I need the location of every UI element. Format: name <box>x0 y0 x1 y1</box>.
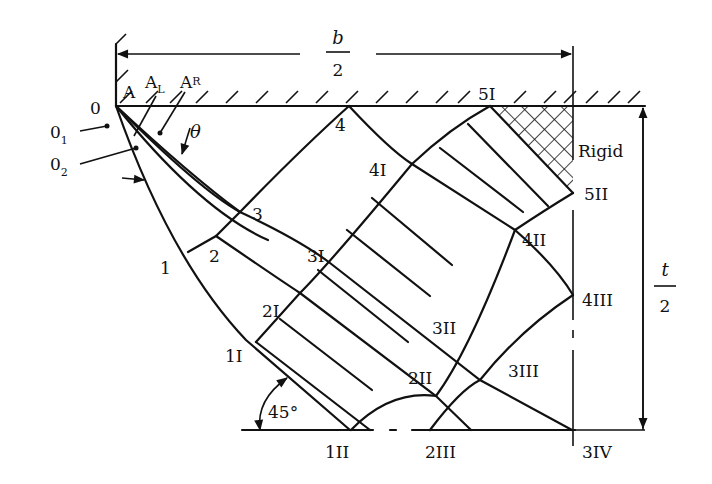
node-3III: 3III <box>508 361 539 381</box>
rigid-label: Rigid <box>578 141 624 161</box>
theta-label: θ <box>190 121 201 142</box>
node-1II: 1II <box>325 442 349 462</box>
node-1I: 1I <box>225 346 243 366</box>
width-label-numerator: b <box>332 27 344 48</box>
node-4III: 4III <box>582 290 613 310</box>
node-4: 4 <box>335 115 346 135</box>
node-5I: 5I <box>478 84 496 104</box>
node-2III: 2III <box>425 442 456 462</box>
ar-label: AR <box>179 72 201 92</box>
node-4I: 4I <box>369 160 387 180</box>
angle-45: 45° <box>260 378 299 430</box>
o2-label: 02 <box>50 154 68 179</box>
slip-line-diagram: b 2 t 2 <box>0 0 712 484</box>
origin-labels: 0 01 02 <box>50 98 101 179</box>
node-3IV: 3IV <box>582 442 613 462</box>
height-label-numerator: t <box>661 259 669 280</box>
node-2: 2 <box>209 246 220 266</box>
angle-45-label: 45° <box>268 402 298 422</box>
node-1: 1 <box>160 258 171 278</box>
node-3II: 3II <box>432 318 456 338</box>
width-label-denominator: 2 <box>333 60 344 80</box>
al-label: AL <box>144 72 165 96</box>
node-3I: 3I <box>307 246 325 266</box>
o1-label: 01 <box>50 122 68 147</box>
fan-lines <box>116 106 350 430</box>
node-5II: 5II <box>584 184 608 204</box>
node-4II: 4II <box>522 230 546 250</box>
height-label-denominator: 2 <box>660 296 671 316</box>
origin-label: 0 <box>90 98 101 118</box>
top-point-labels: A AL AR <box>122 72 201 102</box>
node-2I: 2I <box>262 301 280 321</box>
top-wall <box>116 91 645 106</box>
node-2II: 2II <box>408 368 432 388</box>
node-3: 3 <box>252 204 263 224</box>
rigid-zone <box>490 106 574 196</box>
width-dimension: b 2 <box>118 27 573 106</box>
beta-lines <box>188 106 573 430</box>
a-label: A <box>122 82 136 102</box>
